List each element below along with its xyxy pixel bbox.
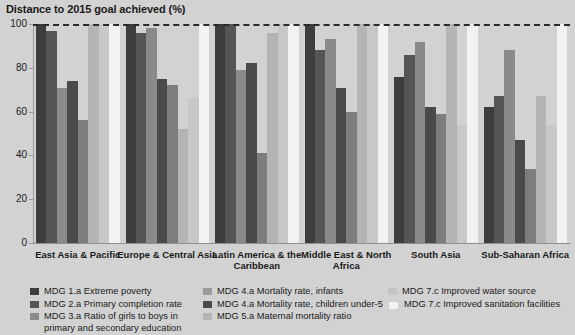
legend-swatch [203,313,212,320]
y-axis-tick-mark [29,155,33,156]
y-axis-tick-label: 0 [0,238,27,248]
legend-label: MDG 5.a Maternal mortality ratio [217,311,351,323]
legend-label: MDG 7.c Improved water source [402,286,536,298]
bar[interactable] [246,63,256,243]
legend-label: MDG 2.a Primary completion rate [44,299,194,311]
bar[interactable] [494,96,504,243]
bar[interactable] [467,24,477,243]
bar[interactable] [199,24,209,243]
bar[interactable] [446,24,456,243]
bar[interactable] [457,125,467,243]
bar[interactable] [336,88,346,243]
x-axis-category-label: East Asia & Pacific [27,249,129,260]
x-axis-category-label: Latin America & the Caribbean [206,249,308,271]
bar-group [126,24,210,243]
bar[interactable] [109,24,119,243]
legend-item[interactable]: MDG 7.c Improved sanitation facilities [388,299,560,311]
goal-reference-line [33,24,570,26]
bar[interactable] [415,42,425,243]
legend-item[interactable]: MDG 1.a Extreme poverty [30,286,194,298]
bar[interactable] [315,50,325,243]
bar[interactable] [167,85,177,243]
bar[interactable] [146,28,156,243]
bar[interactable] [557,24,567,243]
legend-label: MDG 4.a Mortality rate, children under-5 [217,299,383,311]
y-axis-tick-label: 20 [0,194,27,204]
bar[interactable] [378,24,388,243]
y-axis-tick-label: 60 [0,107,27,117]
y-axis-tick-label: 80 [0,63,27,73]
bar-group [484,24,568,243]
bar[interactable] [188,98,198,243]
x-axis-line [33,243,570,244]
bar[interactable] [126,24,136,243]
bar[interactable] [404,55,414,243]
chart-title: Distance to 2015 goal achieved (%) [6,3,185,15]
bar[interactable] [178,129,188,243]
bar[interactable] [436,114,446,243]
bar[interactable] [236,70,246,243]
y-axis-tick-mark [29,199,33,200]
bar[interactable] [504,50,514,243]
legend-item[interactable]: MDG 5.a Maternal mortality ratio [203,311,351,323]
x-axis-category-label: South Asia [385,249,487,260]
bar[interactable] [394,77,404,243]
bar[interactable] [425,107,435,243]
bar[interactable] [78,120,88,243]
y-axis-tick-mark [29,68,33,69]
legend-swatch [203,301,212,308]
legend-swatch [30,288,39,295]
bar[interactable] [367,24,377,243]
bar[interactable] [267,33,277,243]
bar[interactable] [46,31,56,243]
bar[interactable] [536,96,546,243]
y-axis-tick-mark [29,112,33,113]
legend-item[interactable]: MDG 2.a Primary completion rate [30,299,194,311]
bar[interactable] [99,24,109,243]
bar[interactable] [357,24,367,243]
bar-group [36,24,120,243]
legend-item[interactable]: MDG 3.a Ratio of girls to boys in primar… [30,311,194,334]
legend-label: MDG 1.a Extreme poverty [44,286,194,298]
bar[interactable] [525,169,535,243]
bar[interactable] [288,24,298,243]
bar[interactable] [484,107,494,243]
y-axis-tick-label: 100 [0,19,27,29]
x-axis-category-label: Middle East & North Africa [296,249,398,271]
y-axis-line [33,24,34,244]
legend-label: MDG 4.a Mortality rate, infants [217,286,343,298]
legend-item[interactable]: MDG 7.c Improved water source [388,286,536,298]
bar[interactable] [136,33,146,243]
legend-label: MDG 3.a Ratio of girls to boys in primar… [44,311,194,334]
x-axis-category-label: Europe & Central Asia [117,249,219,260]
legend-swatch [203,288,212,295]
y-axis-tick-label: 40 [0,150,27,160]
legend-label: MDG 7.c Improved sanitation facilities [404,299,560,311]
bar[interactable] [157,79,167,243]
legend-swatch [30,301,39,308]
bar[interactable] [305,24,315,243]
legend-item[interactable]: MDG 4.a Mortality rate, children under-5 [203,299,383,311]
bar[interactable] [257,153,267,243]
chart-legend: MDG 1.a Extreme povertyMDG 2.a Primary c… [0,286,575,335]
bar[interactable] [515,140,525,243]
bar[interactable] [325,39,335,243]
legend-swatch [30,313,39,320]
legend-item[interactable]: MDG 4.a Mortality rate, infants [203,286,343,298]
bar[interactable] [346,112,356,243]
bar-group [215,24,299,243]
legend-swatch [388,288,397,295]
legend-swatch [388,301,399,310]
x-axis-category-label: Sub-Saharan Africa [475,249,575,260]
bar[interactable] [88,24,98,243]
bar[interactable] [278,24,288,243]
bar[interactable] [67,81,77,243]
y-axis-tick-mark [29,243,33,244]
bar[interactable] [215,24,225,243]
bar[interactable] [57,88,67,243]
bar[interactable] [225,24,235,243]
bar[interactable] [546,125,556,243]
bar-group [394,24,478,243]
bar-group [305,24,389,243]
bar[interactable] [36,24,46,243]
